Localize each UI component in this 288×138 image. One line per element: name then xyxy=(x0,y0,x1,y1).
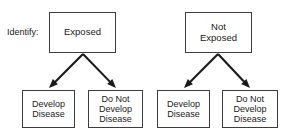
not-exposed-not-develop-box-label: Do Not Develop Disease xyxy=(233,94,266,124)
arrow-exposed-to-develop-head xyxy=(49,79,58,88)
not-exposed-develop-box[interactable]: Develop Disease xyxy=(157,90,210,128)
exposed-develop-box-label: Develop Disease xyxy=(32,99,65,119)
exposed-not-develop-box-label: Do Not Develop Disease xyxy=(99,94,132,124)
exposed-box[interactable]: Exposed xyxy=(49,12,116,53)
arrow-not-exposed-to-not-develop-head xyxy=(241,79,250,88)
not-exposed-box-label: Not Exposed xyxy=(200,22,237,43)
exposed-not-develop-box[interactable]: Do Not Develop Disease xyxy=(88,90,143,128)
arrow-exposed-to-develop-shaft xyxy=(54,54,83,83)
epidemiology-cohort-diagram: Identify: Exposed Not Exposed Develop Di… xyxy=(0,0,288,138)
arrow-exposed-to-not-develop-shaft xyxy=(83,54,111,83)
arrow-exposed-to-not-develop-head xyxy=(107,79,116,88)
arrow-not-exposed-to-not-develop-shaft xyxy=(218,54,245,83)
arrow-not-exposed-to-develop-shaft xyxy=(189,54,218,83)
exposed-box-label: Exposed xyxy=(64,27,101,38)
identify-label: Identify: xyxy=(7,27,39,37)
not-exposed-develop-box-label: Develop Disease xyxy=(167,99,200,119)
arrow-not-exposed-to-develop-head xyxy=(184,79,193,88)
not-exposed-box[interactable]: Not Exposed xyxy=(185,12,252,53)
exposed-develop-box[interactable]: Develop Disease xyxy=(22,90,75,128)
not-exposed-not-develop-box[interactable]: Do Not Develop Disease xyxy=(222,90,278,128)
